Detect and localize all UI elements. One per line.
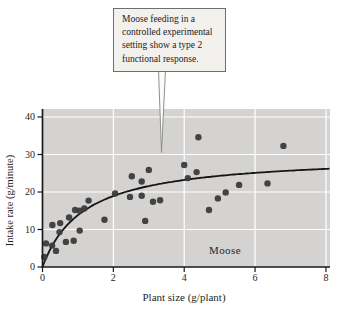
plot-area — [43, 109, 331, 267]
data-point — [129, 173, 135, 179]
data-point — [185, 175, 191, 181]
data-point — [280, 143, 286, 149]
data-point — [139, 178, 145, 184]
annotation-callout: Moose feeding in a controlled experiment… — [113, 8, 226, 72]
x-axis-title: Plant size (g/plant) — [84, 291, 284, 303]
annotation-line: controlled experimental — [122, 26, 221, 39]
series-label-moose: Moose — [198, 244, 252, 256]
annotation-line: setting show a type 2 — [122, 39, 221, 52]
data-point — [71, 238, 77, 244]
data-point — [150, 199, 156, 205]
data-point — [66, 214, 72, 220]
x-tick-label: 2 — [101, 272, 125, 284]
x-tick-label: 8 — [314, 272, 338, 284]
data-point — [142, 218, 148, 224]
data-point — [181, 162, 187, 168]
data-point — [49, 222, 55, 228]
x-tick-label: 0 — [31, 272, 55, 284]
data-point — [57, 220, 63, 226]
data-point — [146, 167, 152, 173]
data-point — [85, 197, 91, 203]
data-point — [53, 248, 59, 254]
data-point — [63, 239, 69, 245]
data-point — [43, 240, 49, 246]
data-point — [206, 207, 212, 213]
x-tick-label: 6 — [243, 272, 267, 284]
data-point — [49, 242, 55, 248]
figure-moose-functional-response: 01020304002468 Plant size (g/plant) Inta… — [0, 0, 341, 317]
annotation-line: functional response. — [122, 53, 221, 66]
data-point — [101, 217, 107, 223]
data-point — [236, 182, 242, 188]
data-point — [195, 134, 201, 140]
data-point — [81, 205, 87, 211]
data-point — [264, 180, 270, 186]
data-point — [112, 190, 118, 196]
data-point — [56, 229, 62, 235]
y-tick-label: 40 — [9, 111, 35, 123]
data-point — [223, 189, 229, 195]
data-point — [157, 197, 163, 203]
data-point — [77, 227, 83, 233]
data-point — [215, 195, 221, 201]
data-point — [127, 194, 133, 200]
data-point — [193, 169, 199, 175]
annotation-line: Moose feeding in a — [122, 13, 221, 26]
data-point — [139, 193, 145, 199]
y-axis-title: Intake rate (g/minute) — [4, 135, 17, 267]
x-tick-label: 4 — [172, 272, 196, 284]
